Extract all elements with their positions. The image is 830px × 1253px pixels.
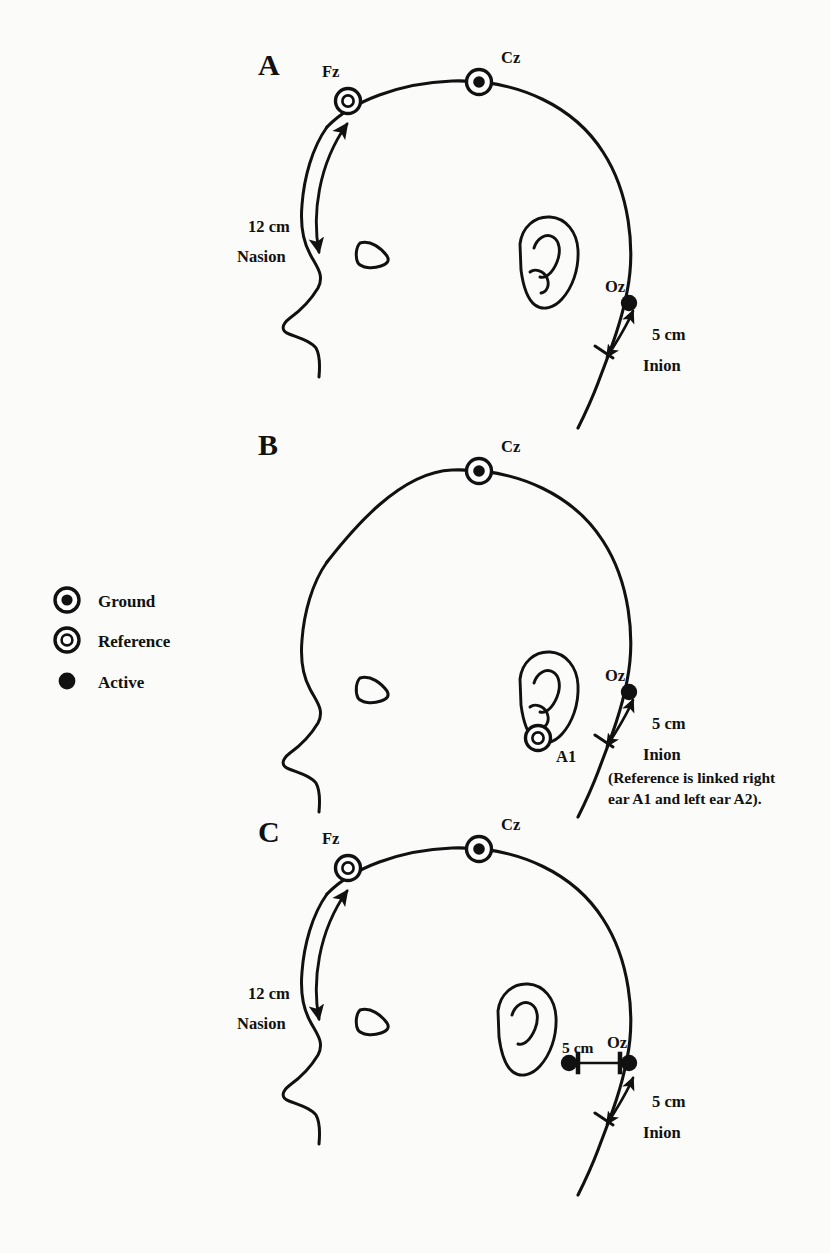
label-inion-c: Inion <box>643 1123 681 1142</box>
electrode-lateral-c <box>561 1055 577 1071</box>
label-nasion-c: Nasion <box>237 1014 286 1033</box>
electrode-cz-b <box>467 459 492 484</box>
legend-item-reference: Reference <box>55 628 171 652</box>
active-symbol <box>59 673 76 690</box>
panel-b-letter: B <box>258 428 278 461</box>
eye-b <box>356 677 388 702</box>
label-fz-c: Fz <box>322 829 339 848</box>
label-5cm-lateral-c: 5 cm <box>562 1039 594 1056</box>
label-fz-a: Fz <box>322 62 339 81</box>
reference-symbol-ring <box>55 628 79 652</box>
measure-arc-12cm-a <box>316 124 347 252</box>
label-nasion-a: Nasion <box>237 247 286 266</box>
eeg-placement-figure: Ground Reference Active A <box>0 0 830 1253</box>
legend-item-active: Active <box>59 673 145 692</box>
electrode-oz-b <box>621 684 637 700</box>
electrode-cz-a <box>467 70 492 95</box>
label-oz-b: Oz <box>605 666 625 685</box>
panel-b: B Cz A1 Oz 5 cm <box>258 428 776 817</box>
legend-label-active: Active <box>98 673 145 692</box>
head-outline-b <box>327 470 631 817</box>
head-outline-a <box>327 81 631 428</box>
label-a1-b: A1 <box>556 747 576 766</box>
electrode-a1-b <box>526 726 551 751</box>
electrode-oz-c <box>621 1055 637 1071</box>
reference-note-line1: (Reference is linked right <box>608 769 776 787</box>
label-12cm-c: 12 cm <box>248 984 290 1003</box>
panel-c: C Fz Cz <box>237 815 686 1195</box>
legend-item-ground: Ground <box>55 588 156 612</box>
label-oz-c: Oz <box>607 1033 627 1052</box>
label-cz-c: Cz <box>501 815 520 834</box>
label-cz-b: Cz <box>501 437 520 456</box>
figure-root: Ground Reference Active A <box>0 0 830 1253</box>
label-cz-a: Cz <box>501 48 520 67</box>
label-12cm-a: 12 cm <box>248 217 290 236</box>
head-outline-c <box>327 848 631 1195</box>
ear-a <box>520 217 578 308</box>
eye-c <box>356 1009 388 1034</box>
label-inion-a: Inion <box>643 356 681 375</box>
electrode-fz-c <box>336 856 361 881</box>
electrode-oz-a <box>621 295 637 311</box>
panel-c-letter: C <box>258 815 280 848</box>
label-5cm-a: 5 cm <box>652 325 686 344</box>
electrode-cz-c <box>467 837 492 862</box>
label-inion-b: Inion <box>643 745 681 764</box>
panel-a: A Fz <box>237 48 686 428</box>
ground-symbol-core <box>61 594 72 605</box>
face-profile-b <box>283 562 327 812</box>
label-5cm-b: 5 cm <box>652 714 686 733</box>
legend-label-reference: Reference <box>98 632 171 651</box>
panel-a-letter: A <box>258 48 280 81</box>
legend: Ground Reference Active <box>55 588 171 692</box>
label-oz-a: Oz <box>605 277 625 296</box>
label-5cm-inion-c: 5 cm <box>652 1092 686 1111</box>
eye-a <box>356 242 388 267</box>
ear-c <box>498 984 556 1075</box>
reference-note-line2: ear A1 and left ear A2). <box>608 790 762 808</box>
legend-label-ground: Ground <box>98 592 156 611</box>
measure-arc-12cm-c <box>316 891 347 1019</box>
electrode-fz-a <box>336 89 361 114</box>
